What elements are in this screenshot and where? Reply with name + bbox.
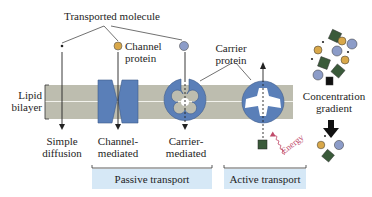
- channel-mediated-arrow: [115, 124, 121, 130]
- carrier-mediated-arrow: [182, 124, 188, 130]
- small-molecule-dot: [61, 45, 64, 48]
- simple-diffusion-arrow: [59, 124, 65, 130]
- label-carrier-mediated: Carrier- mediated: [160, 135, 212, 159]
- label-channel-mediated: Channel- mediated: [92, 135, 144, 159]
- high-concentration-cluster: [313, 29, 357, 85]
- passive-transport-box: Passive transport: [92, 169, 212, 189]
- active-bracket: [224, 165, 306, 168]
- label-channel-protein: Channel protein: [125, 40, 162, 64]
- blue-molecule: [180, 42, 189, 51]
- label-concentration-gradient: Concentration gradient: [298, 90, 370, 114]
- label-simple-diffusion: Simple diffusion: [38, 135, 86, 159]
- title-transported-molecule: Transported molecule: [62, 10, 162, 22]
- low-concentration-cluster: [317, 140, 343, 162]
- passive-bracket: [92, 165, 212, 168]
- title-pointer-lines: [62, 26, 182, 43]
- label-carrier-protein: Carrier protein: [209, 42, 253, 66]
- green-molecule-active: [258, 140, 267, 149]
- active-transport-arrow: [260, 62, 266, 69]
- active-transport-box: Active transport: [224, 169, 306, 189]
- yellow-molecule: [114, 42, 122, 50]
- label-lipid-bilayer: Lipid bilayer: [4, 89, 42, 113]
